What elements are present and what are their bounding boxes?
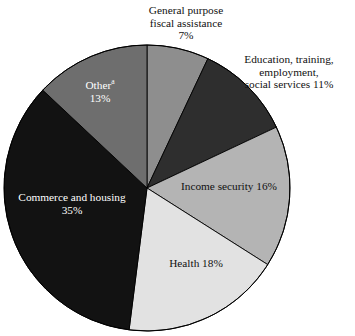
slice-label-other: Othera 13% — [63, 79, 137, 105]
slice-label-general-purpose-fiscal-assistance: General purpose fiscal assistance 7% — [118, 4, 254, 42]
slice-label-other-value: 13% — [90, 92, 111, 104]
slice-label-commerce-and-housing: Commerce and housing 35% — [6, 191, 138, 217]
slice-label-income-security: Income security 16% — [168, 180, 290, 193]
pie-chart-canvas — [0, 0, 355, 336]
slice-label-other-name: Other — [85, 79, 111, 91]
slice-label-education-training-employment-social-services: Education, training, employment, social … — [223, 53, 355, 91]
pie-chart-figure: General purpose fiscal assistance 7% Edu… — [0, 0, 355, 336]
slice-label-health: Health 18% — [143, 257, 249, 270]
slice-label-other-footnote-marker: a — [111, 77, 114, 86]
